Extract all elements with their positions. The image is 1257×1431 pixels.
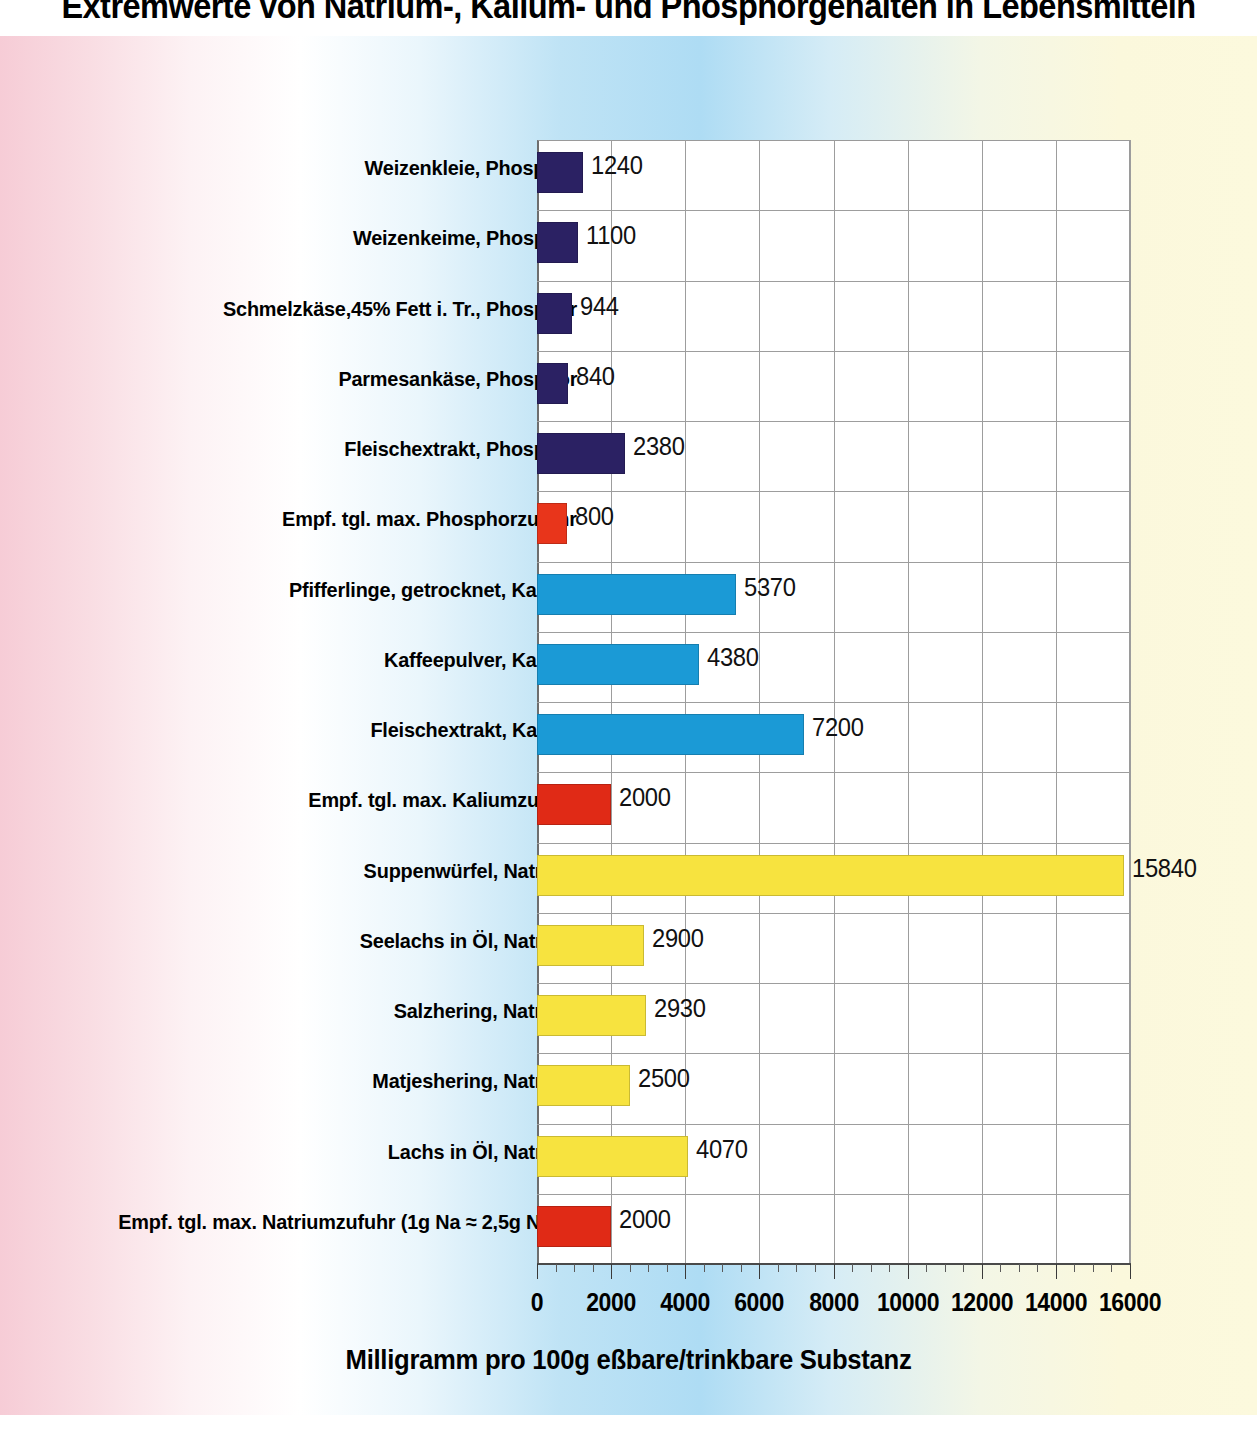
- category-label: Pfifferlinge, getrocknet, Kalium: [289, 578, 577, 602]
- x-tick-minor: [648, 1264, 649, 1272]
- x-tick-minor: [796, 1264, 797, 1272]
- bar-value-label: 7200: [812, 713, 864, 742]
- bar: [537, 574, 736, 615]
- x-tick-major: [982, 1264, 983, 1279]
- x-tick-label: 2000: [586, 1288, 636, 1317]
- x-axis-ticks: [537, 1264, 1130, 1280]
- x-tick-minor: [1093, 1264, 1094, 1272]
- x-tick-minor: [945, 1264, 946, 1272]
- bar-value-label: 840: [576, 362, 615, 391]
- x-tick-minor: [1111, 1264, 1112, 1272]
- bar-value-label: 15840: [1132, 854, 1197, 883]
- x-tick-major: [611, 1264, 612, 1279]
- bar-row: Fleischextrakt, Phosphor2380: [537, 421, 1130, 491]
- bar: [537, 152, 583, 193]
- bar-row: Seelachs in Öl, Natrium2900: [537, 913, 1130, 983]
- bar-row: Fleischextrakt, Kalium7200: [537, 702, 1130, 772]
- bar-row: Suppenwürfel, Natrium15840: [537, 843, 1130, 913]
- x-tick-label: 16000: [1099, 1288, 1161, 1317]
- bar: [537, 503, 567, 544]
- bar: [537, 1065, 630, 1106]
- x-tick-minor: [630, 1264, 631, 1272]
- x-tick-label: 6000: [735, 1288, 785, 1317]
- x-tick-minor: [1000, 1264, 1001, 1272]
- x-tick-minor: [574, 1264, 575, 1272]
- x-tick-major: [685, 1264, 686, 1279]
- x-tick-minor: [889, 1264, 890, 1272]
- x-tick-minor: [667, 1264, 668, 1272]
- bar-row: Empf. tgl. max. Natriumzufuhr (1g Na ≈ 2…: [537, 1194, 1130, 1264]
- bar-value-label: 800: [575, 502, 614, 531]
- x-tick-label: 8000: [809, 1288, 859, 1317]
- bar-row: Pfifferlinge, getrocknet, Kalium5370: [537, 562, 1130, 632]
- x-axis-tick-labels: 0200040006000800010000120001400016000: [0, 1288, 1257, 1322]
- bar-value-label: 2000: [619, 1205, 671, 1234]
- bar-row: Empf. tgl. max. Phosphorzufuhr800: [537, 491, 1130, 561]
- x-tick-minor: [815, 1264, 816, 1272]
- chart-page: Extremwerte von Natrium-, Kalium- und Ph…: [0, 0, 1257, 1431]
- x-tick-major: [908, 1264, 909, 1279]
- bar-rows: Weizenkleie, Phosphor1240Weizenkeime, Ph…: [537, 140, 1130, 1264]
- bar: [537, 433, 625, 474]
- category-label: Empf. tgl. max. Natriumzufuhr (1g Na ≈ 2…: [118, 1210, 577, 1234]
- x-tick-major: [834, 1264, 835, 1279]
- bar-row: Salzhering, Natrium2930: [537, 983, 1130, 1053]
- bar: [537, 995, 646, 1036]
- bar: [537, 855, 1124, 896]
- bar: [537, 714, 804, 755]
- chart-title: Extremwerte von Natrium-, Kalium- und Ph…: [44, 0, 1213, 26]
- bar-value-label: 2930: [654, 994, 706, 1023]
- bar: [537, 363, 568, 404]
- plot-area: Weizenkleie, Phosphor1240Weizenkeime, Ph…: [537, 140, 1130, 1264]
- x-tick-label: 4000: [660, 1288, 710, 1317]
- bar-value-label: 1240: [591, 151, 643, 180]
- bar-value-label: 4070: [696, 1135, 748, 1164]
- bar: [537, 784, 611, 825]
- bar: [537, 925, 644, 966]
- x-tick-label: 10000: [877, 1288, 939, 1317]
- x-tick-minor: [926, 1264, 927, 1272]
- x-tick-major: [537, 1264, 538, 1279]
- x-tick-minor: [704, 1264, 705, 1272]
- x-tick-minor: [1037, 1264, 1038, 1272]
- x-tick-label: 14000: [1025, 1288, 1087, 1317]
- x-tick-major: [1056, 1264, 1057, 1279]
- x-tick-minor: [722, 1264, 723, 1272]
- x-tick-label: 0: [531, 1288, 543, 1317]
- category-label: Empf. tgl. max. Phosphorzufuhr: [282, 507, 577, 531]
- bar: [537, 644, 699, 685]
- x-axis-title: Milligramm pro 100g eßbare/trinkbare Sub…: [31, 1345, 1225, 1376]
- bar-value-label: 2900: [652, 924, 704, 953]
- bar-value-label: 944: [580, 292, 619, 321]
- bar-value-label: 1100: [586, 221, 636, 250]
- x-tick-minor: [963, 1264, 964, 1272]
- bar-row: Weizenkeime, Phosphor1100: [537, 210, 1130, 280]
- x-tick-major: [759, 1264, 760, 1279]
- bar-value-label: 2500: [638, 1064, 690, 1093]
- bar-value-label: 2000: [619, 783, 671, 812]
- x-tick-minor: [556, 1264, 557, 1272]
- bar: [537, 293, 572, 334]
- x-tick-minor: [1074, 1264, 1075, 1272]
- bar-value-label: 5370: [744, 573, 796, 602]
- x-tick-minor: [593, 1264, 594, 1272]
- x-tick-major: [1130, 1264, 1131, 1279]
- x-tick-minor: [778, 1264, 779, 1272]
- bar-row: Matjeshering, Natrium2500: [537, 1053, 1130, 1123]
- bar: [537, 222, 578, 263]
- category-label: Schmelzkäse,45% Fett i. Tr., Phosphor: [223, 297, 577, 321]
- page-bottom-margin: [0, 1415, 1257, 1431]
- bar-row: Parmesankäse, Phosphor840: [537, 351, 1130, 421]
- x-tick-minor: [1019, 1264, 1020, 1272]
- x-tick-minor: [852, 1264, 853, 1272]
- bar-row: Schmelzkäse,45% Fett i. Tr., Phosphor944: [537, 281, 1130, 351]
- bar-row: Empf. tgl. max. Kaliumzufuhr2000: [537, 772, 1130, 842]
- bar-row: Lachs in Öl, Natrium4070: [537, 1124, 1130, 1194]
- vertical-gridline: [1130, 140, 1131, 1264]
- bar: [537, 1206, 611, 1247]
- bar-value-label: 2380: [633, 432, 685, 461]
- x-tick-minor: [741, 1264, 742, 1272]
- x-tick-minor: [871, 1264, 872, 1272]
- bar-row: Weizenkleie, Phosphor1240: [537, 140, 1130, 210]
- bar-row: Kaffeepulver, Kalium4380: [537, 632, 1130, 702]
